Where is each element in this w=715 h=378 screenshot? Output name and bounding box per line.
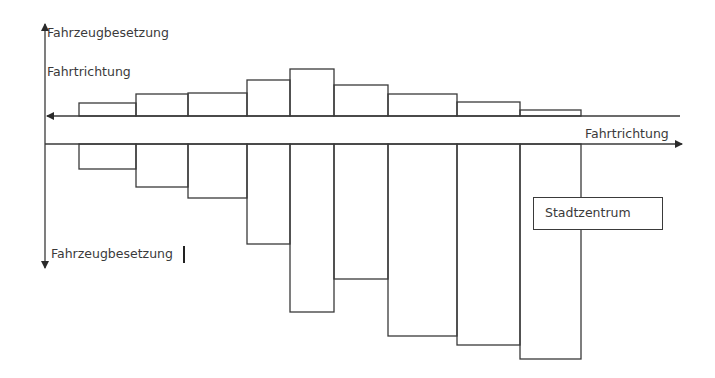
- city-center-label: Stadtzentrum: [545, 207, 631, 220]
- bar-down-2: [136, 144, 188, 187]
- bar-down-9: [520, 144, 581, 359]
- occupancy-diagram: [0, 0, 715, 378]
- y-axis-label-bottom[interactable]: Fahrzeugbesetzung: [51, 248, 173, 261]
- bars-upper-direction: [79, 69, 581, 116]
- bar-up-9: [520, 110, 581, 116]
- text-cursor: [183, 246, 185, 263]
- bar-up-7: [388, 94, 457, 116]
- bar-down-3: [188, 144, 247, 198]
- bar-up-6: [334, 85, 388, 116]
- bar-up-8: [457, 102, 520, 116]
- bar-down-6: [334, 144, 388, 279]
- city-center-box[interactable]: Stadtzentrum: [533, 197, 663, 230]
- bar-down-4: [247, 144, 290, 244]
- bar-up-3: [188, 93, 247, 116]
- bar-down-5: [290, 144, 334, 312]
- y-axis-label-top: Fahrzeugbesetzung: [47, 27, 169, 40]
- direction-label-bottom: Fahrtrichtung: [585, 128, 669, 141]
- bar-up-4: [247, 80, 290, 116]
- bar-down-7: [388, 144, 457, 336]
- bar-up-2: [136, 94, 188, 116]
- bar-down-1: [79, 144, 136, 169]
- bar-up-1: [79, 103, 136, 116]
- bar-down-8: [457, 144, 520, 345]
- bar-up-5: [290, 69, 334, 116]
- direction-label-top: Fahrtrichtung: [47, 66, 131, 79]
